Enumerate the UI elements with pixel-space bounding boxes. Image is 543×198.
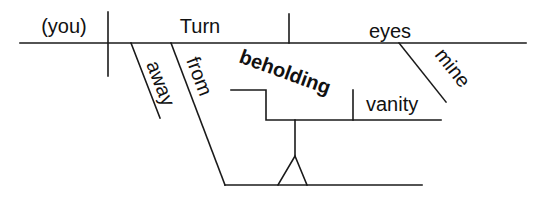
adverb-word: away [142, 58, 179, 109]
pedestal-triangle [278, 156, 307, 185]
sentence-diagram: (you) Turn eyes away mine from beholding… [0, 0, 543, 198]
subject-word: (you) [41, 15, 87, 37]
preposition-word: from [182, 54, 217, 99]
gerund-object-word: vanity [366, 93, 418, 115]
direct-object-word: eyes [369, 20, 411, 42]
verb-word: Turn [180, 15, 220, 37]
object-modifier-word: mine [431, 44, 475, 92]
